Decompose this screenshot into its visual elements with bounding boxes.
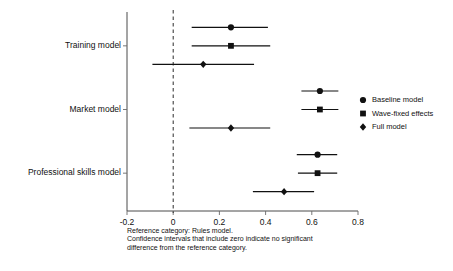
footnote-line: difference from the reference category. (127, 244, 247, 252)
x-tick-label: 0.8 (352, 217, 364, 227)
marker-diamond (200, 61, 206, 68)
y-axis-category-label: Market model (70, 104, 122, 114)
x-tick-label: 0.6 (306, 217, 318, 227)
marker-diamond (281, 188, 287, 195)
marker-circle (317, 88, 323, 94)
footnote-line: Confidence intervals that include zero i… (127, 235, 313, 243)
footnote-line: Reference category: Rules model. (127, 227, 233, 235)
marker-square (360, 111, 366, 117)
marker-diamond (228, 124, 234, 131)
forest-plot: -0.200.20.40.60.8Training modelMarket mo… (0, 0, 453, 271)
legend-label: Wave-fixed effects (372, 109, 434, 118)
y-axis-category-label: Professional skills model (28, 167, 121, 177)
x-tick-label: 0.2 (213, 217, 225, 227)
x-tick-label: -0.2 (120, 217, 135, 227)
marker-circle (314, 152, 320, 158)
legend-label: Baseline model (372, 95, 424, 104)
x-tick-label: 0.4 (260, 217, 272, 227)
marker-square (317, 107, 323, 113)
y-axis-category-label: Training model (65, 40, 121, 50)
marker-diamond (360, 123, 366, 130)
marker-square (315, 170, 321, 176)
marker-circle (360, 97, 366, 103)
marker-circle (228, 24, 234, 30)
marker-square (228, 43, 234, 49)
legend-label: Full model (372, 122, 407, 131)
x-tick-label: 0 (171, 217, 176, 227)
